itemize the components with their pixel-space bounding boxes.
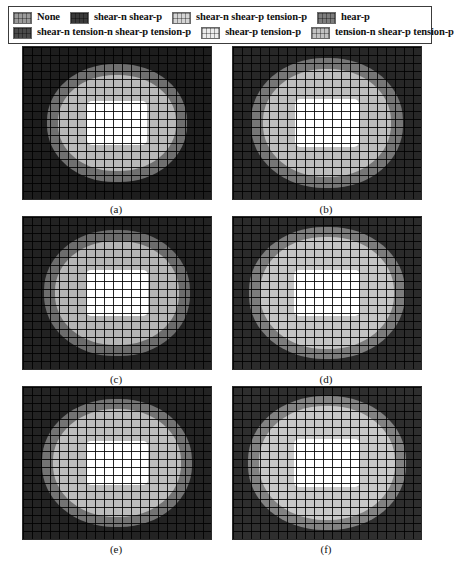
- legend-item-shear-n-tension-n-shear-p-tension-p: shear-n tension-n shear-p tension-p: [13, 27, 191, 39]
- panel-f-caption: (f): [232, 541, 420, 557]
- panel-d-plot: [232, 216, 422, 370]
- panel-a-opening: [87, 101, 147, 145]
- panel-e: (e): [22, 386, 212, 557]
- panel-f-opening: [294, 439, 360, 487]
- panel-a-caption: (a): [22, 201, 210, 217]
- legend-item-shear-n-shear-p-tension-p: shear-n shear-p tension-p: [172, 12, 307, 24]
- legend-row-2: shear-n tension-n shear-p tension-p shea…: [13, 25, 427, 40]
- panel-f-plot: [232, 386, 422, 540]
- legend-swatch-none: [13, 12, 32, 24]
- legend-item-tension-n-shear-p-tension-p: tension-n shear-p tension-p: [311, 27, 454, 39]
- panel-b-opening: [295, 99, 359, 147]
- panel-a: (a): [22, 46, 212, 217]
- legend-row-1: None shear-n shear-p shear-n shear-p ten…: [13, 10, 427, 25]
- legend-label-tension-n-shear-p-tension-p: tension-n shear-p tension-p: [335, 27, 454, 38]
- legend-item-none: None: [13, 12, 60, 24]
- panel-grid: (a) (b) (c) (d): [0, 46, 440, 581]
- legend-item-shear-p-tension-p: shear-p tension-p: [201, 27, 301, 39]
- panel-c-caption: (c): [22, 371, 210, 387]
- legend-swatch-shear-n-shear-p-tension-p: [172, 12, 191, 24]
- panel-b: (b): [232, 46, 422, 217]
- legend-swatch-hear-p: [317, 12, 336, 24]
- panel-c: (c): [22, 216, 212, 387]
- legend-label-shear-n-shear-p: shear-n shear-p: [94, 12, 162, 23]
- panel-d-caption: (d): [232, 371, 420, 387]
- panel-b-caption: (b): [232, 201, 420, 217]
- legend-label-shear-p-tension-p: shear-p tension-p: [225, 27, 301, 38]
- panel-e-opening: [86, 441, 148, 485]
- legend-label-shear-n-shear-p-tension-p: shear-n shear-p tension-p: [196, 12, 307, 23]
- legend-swatch-shear-n-shear-p: [70, 12, 89, 24]
- legend-item-hear-p: hear-p: [317, 12, 370, 24]
- panel-e-plot: [22, 386, 212, 540]
- legend-label-shear-n-tension-n-shear-p-tension-p: shear-n tension-n shear-p tension-p: [37, 27, 191, 38]
- panel-b-plot: [232, 46, 422, 200]
- panel-d: (d): [232, 216, 422, 387]
- panel-d-opening: [294, 270, 360, 316]
- legend-swatch-tension-n-shear-p-tension-p: [311, 27, 330, 39]
- panel-c-opening: [86, 270, 148, 316]
- legend-label-hear-p: hear-p: [341, 12, 370, 23]
- plasticity-state-legend: None shear-n shear-p shear-n shear-p ten…: [8, 6, 432, 44]
- panel-f: (f): [232, 386, 422, 557]
- legend-label-none: None: [37, 12, 60, 23]
- legend-item-shear-n-shear-p: shear-n shear-p: [70, 12, 162, 24]
- legend-swatch-shear-p-tension-p: [201, 27, 220, 39]
- panel-e-caption: (e): [22, 541, 210, 557]
- legend-swatch-shear-n-tension-n-shear-p-tension-p: [13, 27, 32, 39]
- panel-c-plot: [22, 216, 212, 370]
- panel-a-plot: [22, 46, 212, 200]
